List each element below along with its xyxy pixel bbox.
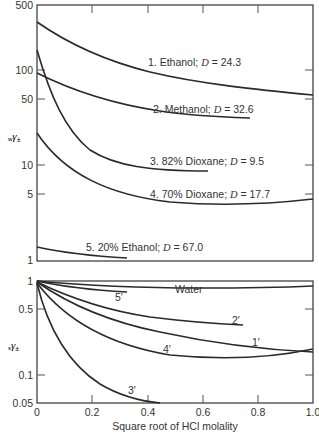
svg-text:0.05: 0.05 <box>13 397 34 409</box>
svg-text:0.5: 0.5 <box>18 303 33 315</box>
svg-text:100: 100 <box>15 64 33 76</box>
svg-text:1.0: 1.0 <box>306 406 319 418</box>
label-curve-2: 2. Methanol; D = 32.6 <box>153 103 254 115</box>
label-curve-4: 4. 70% Dioxane; D = 17.7 <box>150 188 270 200</box>
lower-plot: 1 0.5 0.1 0.05 0 0.2 0.4 0.6 0.8 1.0 Squ… <box>8 275 319 432</box>
upper-y-axis-label: wγ± <box>7 130 21 143</box>
svg-text:5: 5 <box>27 188 33 200</box>
label-curve-3: 3. 82% Dioxane; D = 9.5 <box>150 155 264 167</box>
svg-text:0.2: 0.2 <box>85 406 100 418</box>
lower-y-tick-labels: 1 0.5 0.1 0.05 <box>13 275 34 409</box>
label-curve-2-prime: 2′ <box>232 314 240 326</box>
svg-text:0: 0 <box>34 406 40 418</box>
label-curve-5: 5. 20% Ethanol; D = 67.0 <box>86 241 203 253</box>
svg-text:1: 1 <box>27 275 33 287</box>
svg-text:0.1: 0.1 <box>18 369 33 381</box>
svg-text:500: 500 <box>15 0 33 11</box>
upper-plot: 500 100 50 10 5 1 wγ± 1. Ethanol; D = 24… <box>7 0 313 266</box>
upper-top-ticks <box>92 5 258 13</box>
upper-y-tick-labels: 500 100 50 10 5 1 <box>15 0 33 266</box>
svg-text:0.4: 0.4 <box>141 406 156 418</box>
lower-y-axis-label: sγ± <box>8 339 19 352</box>
label-curve-1: 1. Ethanol; D = 24.3 <box>148 56 241 68</box>
figure: 500 100 50 10 5 1 wγ± 1. Ethanol; D = 24… <box>0 0 319 434</box>
upper-plot-frame <box>37 5 313 261</box>
label-curve-3-prime: 3′ <box>128 384 136 396</box>
svg-text:1: 1 <box>27 254 33 266</box>
label-curve-4-prime: 4′ <box>163 343 171 355</box>
x-axis-label: Square root of HCl molality <box>112 420 238 432</box>
label-water: Water <box>175 283 203 295</box>
svg-text:0.6: 0.6 <box>196 406 211 418</box>
svg-text:50: 50 <box>21 93 33 105</box>
label-curve-5-prime: 5′ <box>115 291 123 303</box>
curve-3-prime <box>37 283 160 403</box>
svg-text:10: 10 <box>21 159 33 171</box>
svg-text:0.8: 0.8 <box>251 406 266 418</box>
lower-x-tick-labels: 0 0.2 0.4 0.6 0.8 1.0 <box>34 406 319 418</box>
upper-left-ticks <box>37 70 313 194</box>
label-curve-1-prime: 1′ <box>252 336 260 348</box>
